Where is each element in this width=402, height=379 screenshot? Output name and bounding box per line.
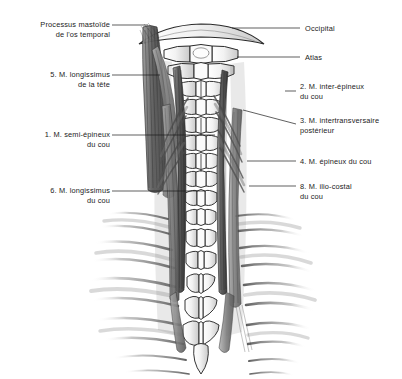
label-longissimus-tete: 5. M. longissimusde la tête (18, 70, 110, 89)
label-line-1: 1. M. semi-épineux (12, 130, 110, 140)
label-epineux-du-cou: 4. M. épineux du cou (300, 157, 372, 167)
label-line-1: 5. M. longissimus (18, 70, 110, 80)
label-atlas: Atlas (305, 53, 322, 63)
label-longissimus-du-cou: 6. M. longissimusdu cou (18, 186, 110, 205)
label-line-1: 3. M. intertransversaire (300, 116, 379, 126)
ribs-right-shading (238, 222, 315, 338)
label-line-1: Occipital (305, 24, 335, 34)
label-line-2: postérieur (300, 126, 379, 136)
label-intertransversaire-posterieur: 3. M. intertransversairepostérieur (300, 116, 379, 135)
label-line-1: 4. M. épineux du cou (300, 157, 372, 167)
label-processus-mastoide: Processus mastoïdede l'os temporal (18, 20, 110, 39)
label-line-2: du cou (300, 92, 364, 102)
label-line-2: du cou (12, 140, 110, 150)
label-line-1: 8. M. ilio-costal (300, 182, 352, 192)
thoracic-vertebrae (183, 190, 219, 375)
label-ilio-costal-du-cou: 8. M. ilio-costaldu cou (300, 182, 352, 201)
anatomical-figure: Processus mastoïdede l'os temporal5. M. … (0, 0, 402, 379)
label-line-1: Atlas (305, 53, 322, 63)
label-line-2: de l'os temporal (18, 30, 110, 40)
label-line-1: Processus mastoïde (18, 20, 110, 30)
label-line-2: du cou (18, 196, 110, 206)
label-line-1: 6. M. longissimus (18, 186, 110, 196)
leader-intertransversaire-posterieur (243, 110, 296, 124)
label-occipital: Occipital (305, 24, 335, 34)
label-inter-epineux-du-cou: 2. M. inter-épineuxdu cou (300, 82, 364, 101)
label-line-2: de la tête (18, 80, 110, 90)
label-semi-epineux-du-cou: 1. M. semi-épineuxdu cou (12, 130, 110, 149)
label-line-1: 2. M. inter-épineux (300, 82, 364, 92)
atlas-vertebra (164, 45, 238, 64)
label-line-2: du cou (300, 192, 352, 202)
